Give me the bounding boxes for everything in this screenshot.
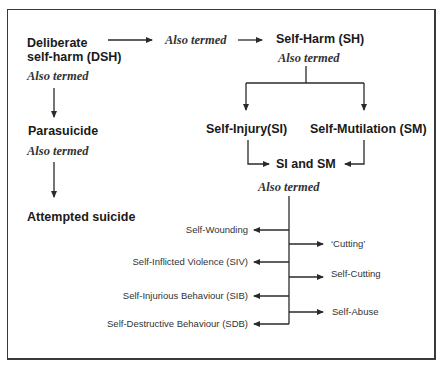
label-also-termed-sism: Also termed bbox=[258, 181, 319, 194]
arrow-si-to-sism bbox=[248, 140, 269, 164]
term-self-abuse: Self-Abuse bbox=[332, 307, 378, 317]
term-cutting: ‘Cutting’ bbox=[331, 239, 365, 249]
node-dsh-line1: Deliberate bbox=[27, 37, 87, 50]
node-attempted-suicide: Attempted suicide bbox=[27, 211, 135, 224]
term-self-wounding: Self-Wounding bbox=[186, 225, 248, 235]
node-self-mutilation: Self-Mutilation (SM) bbox=[310, 123, 427, 136]
label-also-termed-parasuicide: Also termed bbox=[27, 145, 88, 158]
term-self-destructive-behaviour: Self-Destructive Behaviour (SDB) bbox=[107, 319, 248, 329]
node-dsh-line2: self-harm (DSH) bbox=[27, 51, 121, 64]
node-parasuicide: Parasuicide bbox=[28, 125, 98, 138]
node-self-injury: Self-Injury(SI) bbox=[206, 123, 287, 136]
term-self-inflicted-violence: Self-Inflicted Violence (SIV) bbox=[133, 257, 248, 267]
arrow-sm-to-sism bbox=[345, 140, 364, 164]
label-also-termed-mid: Also termed bbox=[165, 34, 226, 47]
node-si-and-sm: SI and SM bbox=[276, 158, 336, 171]
term-self-cutting: Self-Cutting bbox=[331, 269, 381, 279]
term-self-injurious-behaviour: Self-Injurious Behaviour (SIB) bbox=[123, 291, 248, 301]
label-also-termed-sh: Also termed bbox=[278, 52, 339, 65]
node-self-harm: Self-Harm (SH) bbox=[276, 33, 364, 46]
label-also-termed-dsh: Also termed bbox=[27, 70, 88, 83]
